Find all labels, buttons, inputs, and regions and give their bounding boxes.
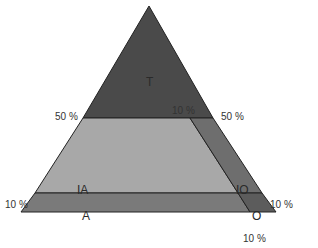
- region-A: [21, 193, 250, 212]
- label-right-50pct: 50 %: [221, 112, 244, 122]
- label-IA: IA: [77, 184, 88, 196]
- label-A: A: [82, 210, 90, 222]
- label-IO: IO: [236, 184, 249, 196]
- label-right-10pct: 10 %: [270, 200, 293, 210]
- ternary-diagram: [0, 0, 318, 248]
- label-left-10pct: 10 %: [5, 200, 28, 210]
- label-bottom-10pct: 10 %: [243, 234, 266, 244]
- label-left-50pct: 50 %: [55, 112, 78, 122]
- region-T: [83, 6, 213, 118]
- label-inner-10pct: 10 %: [172, 106, 195, 116]
- label-O: O: [252, 210, 261, 222]
- label-T: T: [146, 76, 153, 88]
